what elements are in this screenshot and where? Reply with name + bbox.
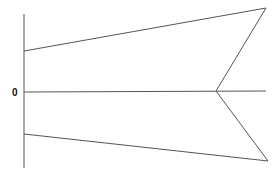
- center-line: [24, 91, 266, 92]
- lower-inner-edge: [216, 91, 268, 161]
- lower-edge: [24, 134, 268, 161]
- upper-inner-edge: [216, 8, 266, 91]
- diagram-canvas: 0: [0, 0, 277, 178]
- upper-edge: [24, 8, 266, 51]
- figure-segments: [24, 8, 268, 161]
- origin-label: 0: [12, 87, 18, 98]
